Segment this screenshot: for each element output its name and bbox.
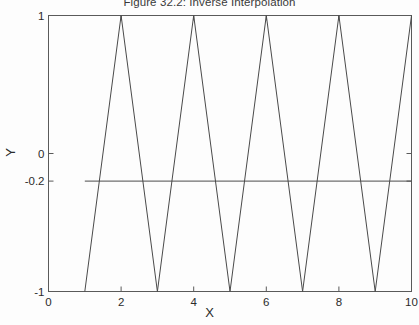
x-axis-label: X: [0, 305, 419, 320]
y-tick-label: -1: [3, 286, 45, 298]
y-tick-label: -0.2: [3, 175, 45, 187]
plot-area: [0, 0, 419, 325]
y-tick-label: 1: [3, 10, 45, 22]
series-triangle-wave: [85, 16, 412, 292]
y-axis-label: Y: [3, 138, 18, 168]
data-series-layer: [85, 16, 412, 292]
figure-canvas: Figure 32.2: Inverse Interpolation 02468…: [0, 0, 419, 325]
